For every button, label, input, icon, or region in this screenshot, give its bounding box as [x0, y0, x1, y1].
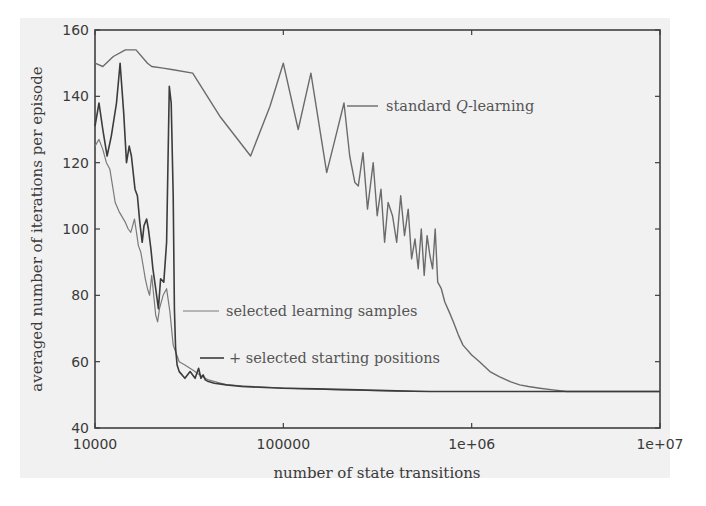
y-tick-label: 40 — [71, 420, 89, 436]
y-tick-label: 60 — [71, 354, 89, 370]
y-tick-label: 100 — [62, 221, 89, 237]
y-tick-label: 160 — [62, 22, 89, 38]
legend-label-standard-q: standard Q-learning — [386, 98, 534, 114]
legend-label-selected-learning: selected learning samples — [226, 303, 417, 319]
y-tick-label: 140 — [62, 88, 89, 104]
series-standard-q-learning — [95, 50, 660, 392]
y-tick-label: 120 — [62, 155, 89, 171]
y-axis-title: averaged number of iterations per episod… — [28, 66, 46, 391]
x-axis-title: number of state transitions — [273, 464, 480, 482]
x-tick-label: 1e+07 — [636, 436, 683, 452]
line-chart: 406080100120140160 100001000001e+061e+07… — [0, 0, 706, 506]
x-tick-label: 10000 — [73, 436, 118, 452]
x-axis: 100001000001e+061e+07 — [73, 30, 684, 452]
series-layer — [95, 50, 660, 392]
plot-frame — [95, 30, 660, 428]
y-tick-label: 80 — [71, 287, 89, 303]
x-tick-label: 1e+06 — [448, 436, 495, 452]
legend: standard Q-learning selected learning sa… — [183, 98, 534, 366]
y-axis: 406080100120140160 — [62, 22, 660, 436]
legend-label-selected-starting: + selected starting positions — [229, 350, 440, 366]
x-tick-label: 100000 — [257, 436, 310, 452]
series-selected-starting-positions — [95, 63, 660, 391]
